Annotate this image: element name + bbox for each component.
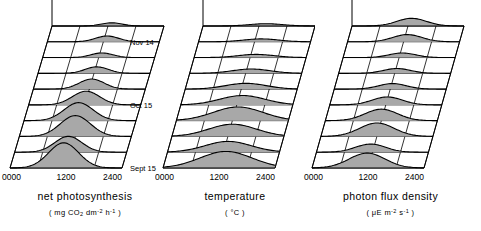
panel-unit-temperature: ( °C ) <box>155 208 315 217</box>
panel-unit-net-photosynthesis: ( mg CO2 dm-2 h-1 ) <box>0 208 170 217</box>
x-axis-tick-label: 1200 <box>359 172 378 182</box>
unit-part-mid: dm <box>84 208 98 217</box>
date-annotation-label: Sept 15 <box>130 164 156 173</box>
unit-part-prefix: ( mg CO <box>49 208 80 217</box>
x-axis-tick-label: 0000 <box>2 172 21 182</box>
panel-unit-photon-flux-density: ( μE m-2 s-1 ) <box>300 208 481 217</box>
y-axis-max-label: 25 <box>187 0 197 2</box>
y-axis-max-label: 1500 <box>326 0 345 2</box>
y-axis-max-label: 25 <box>36 0 46 2</box>
unit-part-suffix: ) <box>116 208 121 217</box>
panel-title-net-photosynthesis: net photosynthesis <box>0 190 170 202</box>
panel-photon-flux-density: 1500000012002400 photon flux density ( μ… <box>300 0 481 231</box>
x-axis-tick-label: 0000 <box>155 172 174 182</box>
unit-part-prefix: ( μE m <box>366 208 391 217</box>
panel-title-temperature: temperature <box>155 190 315 202</box>
waterfall-chart-net-photosynthesis: 25000012002400Sept 15Oct 15Nov 14 <box>0 0 170 190</box>
figure-three-waterfall-plots: 25000012002400Sept 15Oct 15Nov 14 net ph… <box>0 0 481 231</box>
unit-part-mid: °C <box>230 208 239 217</box>
unit-part-mid2: h <box>103 208 110 217</box>
waterfall-chart-temperature: 25000012002400 <box>155 0 315 190</box>
x-axis-tick-label: 0000 <box>304 172 323 182</box>
x-axis-tick-label: 1200 <box>57 172 76 182</box>
panel-net-photosynthesis: 25000012002400Sept 15Oct 15Nov 14 net ph… <box>0 0 170 231</box>
x-axis-tick-label: 2400 <box>103 172 122 182</box>
x-axis-tick-label: 1200 <box>210 172 229 182</box>
x-axis-tick-label: 2400 <box>256 172 275 182</box>
date-annotation-label: Oct 15 <box>130 101 152 110</box>
date-annotation-label: Nov 14 <box>130 38 154 47</box>
panel-temperature: 25000012002400 temperature ( °C ) <box>155 0 315 231</box>
waterfall-chart-photon-flux-density: 1500000012002400 <box>300 0 481 190</box>
unit-part-suffix: ) <box>409 208 414 217</box>
panel-title-photon-flux-density: photon flux density <box>300 190 481 202</box>
x-axis-tick-label: 2400 <box>405 172 424 182</box>
unit-part-suffix: ) <box>240 208 245 217</box>
